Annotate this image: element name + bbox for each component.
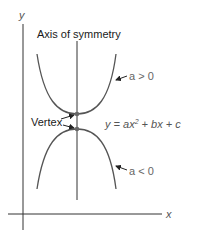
vertex-label: Vertex [31, 116, 63, 128]
y-axis-label: y [18, 9, 26, 21]
a-positive-label: a > 0 [129, 70, 154, 82]
equation-prefix: y = ax [104, 118, 135, 130]
axis-of-symmetry-label: Axis of symmetry [37, 28, 121, 40]
vertex-arrow-upper-icon [61, 115, 74, 119]
x-axis-label: x [165, 208, 172, 220]
parabola-diagram: y x Axis of symmetry a > 0 a < 0 Vertex … [0, 0, 200, 239]
vertex-arrow-lower-icon [63, 125, 74, 128]
equation-suffix: + bx + c [139, 118, 182, 130]
a-negative-arrow-icon [116, 166, 127, 170]
a-positive-arrow-icon [116, 76, 127, 80]
a-negative-label: a < 0 [129, 165, 154, 177]
vertex-dot-lower [75, 127, 80, 132]
vertex-dot-upper [75, 112, 80, 117]
equation-label: y = ax2 + bx + c [104, 118, 181, 130]
